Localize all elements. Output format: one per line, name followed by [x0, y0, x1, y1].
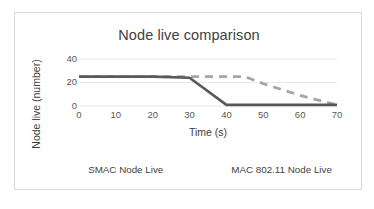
x-tick-label-0: 0	[64, 109, 94, 121]
chart-container: Node live comparison Node live (number) …	[14, 12, 362, 190]
series-line-1	[79, 77, 337, 105]
legend-item-smac[interactable]: SMAC Node Live	[46, 164, 163, 175]
series-lines	[79, 77, 337, 105]
x-axis-ticks: 010203040506070	[79, 109, 337, 123]
legend-item-mac80211[interactable]: MAC 802.11 Node Live	[189, 164, 332, 175]
gridlines	[79, 59, 337, 106]
plot-svg	[79, 59, 337, 106]
x-tick-label-10: 10	[101, 109, 131, 121]
y-axis-title: Node live (number)	[30, 36, 42, 172]
x-tick-label-20: 20	[138, 109, 168, 121]
y-tick-label-40: 40	[53, 54, 77, 64]
x-tick-label-60: 60	[285, 109, 315, 121]
x-tick-label-70: 70	[322, 109, 352, 121]
y-tick-label-20: 20	[53, 77, 77, 87]
legend-label-mac80211: MAC 802.11 Node Live	[231, 164, 332, 175]
x-tick-label-50: 50	[248, 109, 278, 121]
plot-area	[79, 59, 337, 106]
x-tick-label-30: 30	[175, 109, 205, 121]
x-tick-label-40: 40	[211, 109, 241, 121]
x-axis-title: Time (s)	[79, 126, 337, 138]
legend-label-smac: SMAC Node Live	[88, 164, 163, 175]
chart-title: Node live comparison	[15, 27, 363, 43]
chart-legend: SMAC Node Live MAC 802.11 Node Live	[29, 160, 349, 178]
y-axis-ticks: 40 20 0	[51, 59, 77, 106]
